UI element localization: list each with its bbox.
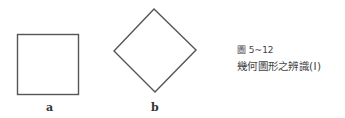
label-b: b	[151, 101, 159, 114]
square-shape-a	[18, 35, 79, 95]
figure-number: 圖 5~12	[237, 43, 274, 56]
diamond-shape-b	[114, 9, 196, 92]
label-a: a	[46, 101, 53, 114]
figure-title: 幾何圖形之辨識(Ⅰ)	[237, 58, 321, 73]
figure: a b 圖 5~12 幾何圖形之辨識(Ⅰ)	[0, 0, 345, 118]
